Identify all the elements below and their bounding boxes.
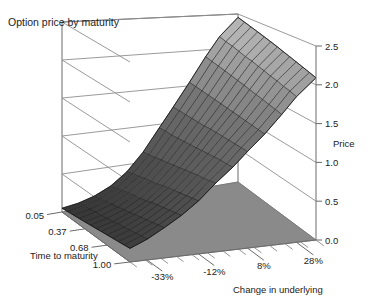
chart-title: Option price by maturity [8,12,119,30]
x-axis-title-text: Change in underlying [233,284,323,295]
z-tick-label: 2.5 [325,41,338,52]
x-tick-label: 8% [257,260,271,271]
surface-chart-figure: 0.00.51.01.52.02.5-33%-12%8%28%0.050.370… [0,0,388,302]
z-axis-title-text: Price [333,138,355,149]
z-axis-title: Price [333,133,355,151]
z-tick-label: 0.5 [325,196,338,207]
z-tick-label: 0.0 [325,235,338,246]
x-tick-label: 28% [304,255,324,266]
z-tick-label: 1.5 [325,118,338,129]
y-axis-title-text: Time to maturity [30,250,98,261]
x-axis-title: Change in underlying [233,279,323,297]
y-tick-label: 0.05 [26,210,45,221]
x-tick-label: -12% [203,266,226,277]
z-tick-label: 2.0 [325,79,338,90]
y-tick-label: 0.37 [48,226,67,237]
z-tick-label: 1.0 [325,157,338,168]
x-tick-label: -33% [151,271,174,282]
chart-title-text: Option price by maturity [8,16,119,28]
y-axis-title: Time to maturity [30,245,98,263]
